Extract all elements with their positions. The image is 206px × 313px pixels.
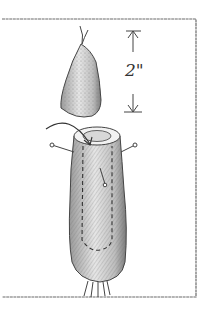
carrot-top-piece <box>61 26 101 117</box>
measurement-label: 2" <box>125 60 144 80</box>
carrot-illustration <box>0 0 206 313</box>
carrot-body-hollowed <box>69 127 126 297</box>
